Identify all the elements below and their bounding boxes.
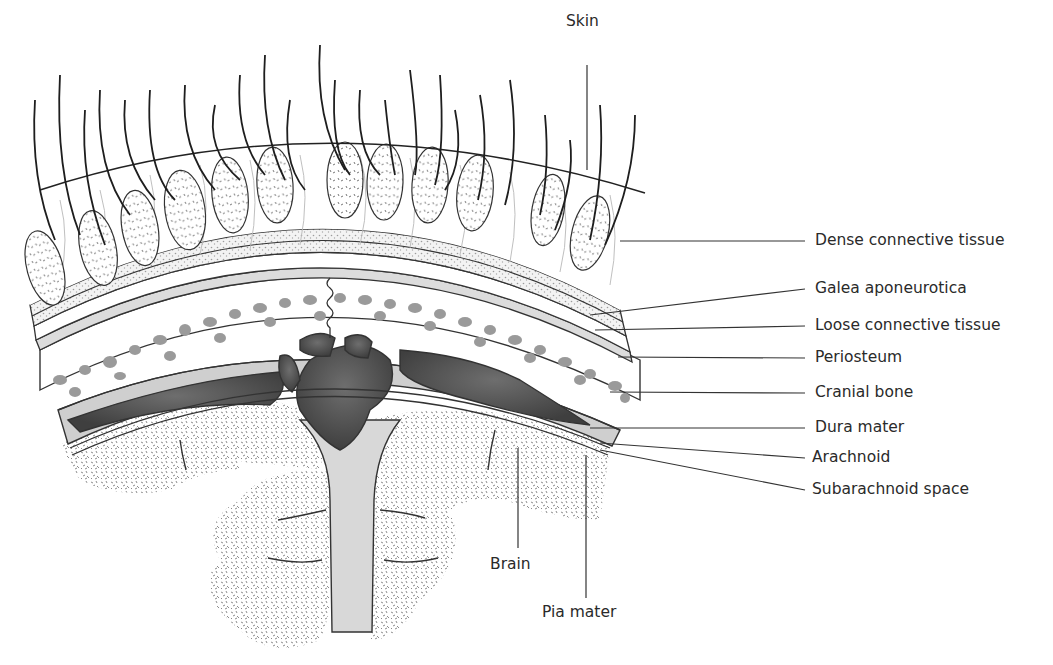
label-periosteum: Periosteum	[815, 350, 902, 366]
label-subarachnoid-space: Subarachnoid space	[812, 482, 969, 498]
leader-periosteum	[618, 357, 805, 358]
label-pia-mater: Pia mater	[542, 605, 616, 621]
label-galea-aponeurotica: Galea aponeurotica	[815, 281, 967, 297]
label-dura-mater: Dura mater	[815, 420, 904, 436]
label-arachnoid: Arachnoid	[812, 450, 890, 466]
leader-loose-connective-tissue	[595, 326, 805, 330]
label-brain: Brain	[490, 557, 531, 573]
diagram-stage: Skin Dense connective tissue Galea apone…	[0, 0, 1053, 665]
label-loose-connective-tissue: Loose connective tissue	[815, 318, 1001, 334]
label-dense-connective-tissue: Dense connective tissue	[815, 233, 1004, 249]
label-cranial-bone: Cranial bone	[815, 385, 913, 401]
label-skin: Skin	[566, 14, 599, 30]
